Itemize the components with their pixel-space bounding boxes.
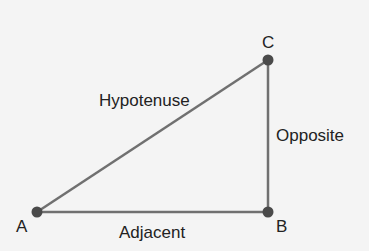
adjacent-label: Adjacent (119, 223, 185, 242)
vertex-b-label: B (276, 217, 287, 236)
opposite-label: Opposite (276, 126, 344, 145)
right-triangle-diagram: C A B Hypotenuse Opposite Adjacent (0, 0, 369, 251)
vertex-c-point (263, 55, 274, 66)
vertex-c-label: C (262, 33, 274, 52)
vertex-b-point (263, 207, 274, 218)
vertex-a-point (32, 207, 43, 218)
hypotenuse-label: Hypotenuse (99, 91, 190, 110)
hypotenuse-side (37, 60, 268, 212)
vertex-a-label: A (16, 217, 28, 236)
